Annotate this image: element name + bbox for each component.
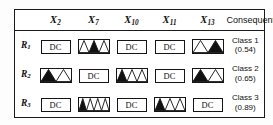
cell-membership-function bbox=[151, 89, 189, 118]
row-label-r2: R2 bbox=[15, 60, 37, 89]
table-row: R1DCDCDCClass 1(0.54) bbox=[15, 31, 265, 60]
membership-function-glyph bbox=[78, 39, 110, 54]
cell-membership-function bbox=[75, 31, 113, 60]
cell-dont-care: DC bbox=[113, 89, 151, 118]
dont-care-box: DC bbox=[193, 98, 223, 112]
column-header-x2: X2 bbox=[37, 10, 75, 31]
consequent-class-label: Class 1 bbox=[227, 36, 265, 46]
fuzzy-rule-table: X2 X7 X10 X11 X13 Consequent R1DCDCDCCla… bbox=[14, 9, 265, 118]
attr-base: X bbox=[124, 14, 131, 25]
cell-consequent: Class 1(0.54) bbox=[227, 31, 265, 60]
row-label-subscript: 2 bbox=[27, 72, 30, 79]
cell-membership-function bbox=[37, 60, 75, 89]
column-header-x11: X11 bbox=[151, 10, 189, 31]
dont-care-box: DC bbox=[155, 40, 185, 54]
cell-dont-care: DC bbox=[75, 60, 113, 89]
column-header-consequent: Consequent bbox=[227, 10, 265, 31]
consequent-certainty-value: (0.89) bbox=[227, 103, 265, 113]
attr-base: X bbox=[200, 14, 207, 25]
membership-function-glyph bbox=[192, 39, 224, 54]
table-body: R1DCDCDCClass 1(0.54)R2DCDCClass 2(0.65)… bbox=[15, 31, 265, 118]
dont-care-box: DC bbox=[41, 98, 71, 112]
consequent-certainty-value: (0.54) bbox=[227, 45, 265, 55]
figure-root: X2 X7 X10 X11 X13 Consequent R1DCDCDCCla… bbox=[0, 0, 273, 125]
cell-dont-care: DC bbox=[37, 31, 75, 60]
row-label-r1: R1 bbox=[15, 31, 37, 60]
dont-care-box: DC bbox=[155, 69, 185, 83]
dont-care-box: DC bbox=[117, 40, 147, 54]
attr-subscript: 7 bbox=[95, 18, 99, 26]
consequent-certainty-value: (0.65) bbox=[227, 74, 265, 84]
attr-subscript: 11 bbox=[170, 18, 177, 26]
cell-membership-function bbox=[75, 89, 113, 118]
cell-membership-function bbox=[189, 60, 227, 89]
dont-care-box: DC bbox=[41, 40, 71, 54]
membership-function-glyph bbox=[78, 97, 110, 112]
column-header-x13: X13 bbox=[189, 10, 227, 31]
table-row: R3DCDCDCClass 3(0.89) bbox=[15, 89, 265, 118]
attr-subscript: 10 bbox=[132, 18, 139, 26]
cell-dont-care: DC bbox=[113, 31, 151, 60]
consequent-class-label: Class 3 bbox=[227, 93, 265, 103]
cell-consequent: Class 3(0.89) bbox=[227, 89, 265, 118]
row-label-r3: R3 bbox=[15, 89, 37, 118]
cell-membership-function bbox=[113, 60, 151, 89]
cell-dont-care: DC bbox=[151, 60, 189, 89]
dont-care-box: DC bbox=[117, 98, 147, 112]
table-row: R2DCDCClass 2(0.65) bbox=[15, 60, 265, 89]
column-header-x7: X7 bbox=[75, 10, 113, 31]
corner-cell bbox=[15, 10, 37, 31]
cell-consequent: Class 2(0.65) bbox=[227, 60, 265, 89]
membership-function-glyph bbox=[192, 68, 224, 83]
row-label-subscript: 3 bbox=[27, 101, 30, 108]
membership-function-glyph bbox=[40, 68, 72, 83]
dont-care-box: DC bbox=[79, 69, 109, 83]
membership-function-glyph bbox=[116, 68, 148, 83]
header-row: X2 X7 X10 X11 X13 Consequent bbox=[15, 10, 265, 31]
consequent-class-label: Class 2 bbox=[227, 64, 265, 74]
membership-function-glyph bbox=[154, 97, 186, 112]
attr-subscript: 13 bbox=[208, 18, 215, 26]
cell-dont-care: DC bbox=[151, 31, 189, 60]
cell-membership-function bbox=[189, 31, 227, 60]
attr-base: X bbox=[162, 14, 169, 25]
table-header: X2 X7 X10 X11 X13 Consequent bbox=[15, 10, 265, 31]
cell-dont-care: DC bbox=[189, 89, 227, 118]
row-label-subscript: 1 bbox=[27, 43, 30, 50]
attr-subscript: 2 bbox=[57, 18, 61, 26]
cell-dont-care: DC bbox=[37, 89, 75, 118]
column-header-x10: X10 bbox=[113, 10, 151, 31]
